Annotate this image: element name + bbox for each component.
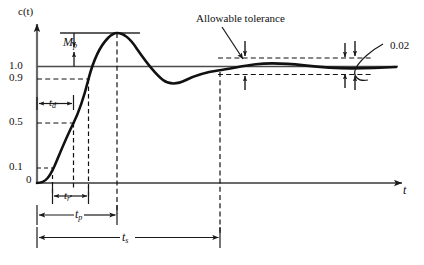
- x-axis-label: t: [403, 184, 406, 196]
- peak-time-subscript: p: [78, 213, 82, 222]
- rise-time-measure: [53, 186, 89, 204]
- y-tick-0.5: 0.5: [9, 116, 23, 127]
- overshoot-label: Mp: [63, 36, 77, 50]
- rise-time-label: tr: [64, 190, 70, 203]
- tolerance-note-label: Allowable tolerance: [196, 13, 285, 24]
- delay-time-label: td: [49, 97, 56, 110]
- tolerance-leader-arrow: [222, 27, 243, 59]
- tolerance-arrows-right: [345, 41, 355, 90]
- y-tick-0: 0: [26, 174, 32, 185]
- y-tick-1.0: 1.0: [9, 60, 23, 71]
- step-response-figure: c(t) 1.0 0.9 0.5 0.1 0 t Mp td tr tp ts …: [0, 0, 424, 265]
- dashed-helper-lines: [37, 33, 372, 236]
- settling-time-label: ts: [122, 231, 128, 245]
- overshoot-subscript: p: [73, 41, 77, 50]
- rise-time-subscript: r: [67, 194, 70, 203]
- y-tick-0.1: 0.1: [9, 161, 23, 172]
- tolerance-value-label: 0.02: [390, 40, 409, 51]
- delay-time-subscript: d: [52, 101, 56, 110]
- response-curve: [37, 33, 396, 183]
- y-tick-0.9: 0.9: [9, 72, 23, 83]
- settling-time-measure: [37, 227, 220, 248]
- settling-time-subscript: s: [125, 236, 128, 245]
- y-axis-label: c(t): [18, 6, 33, 17]
- axes-group: [37, 24, 402, 183]
- peak-time-label: tp: [75, 208, 82, 222]
